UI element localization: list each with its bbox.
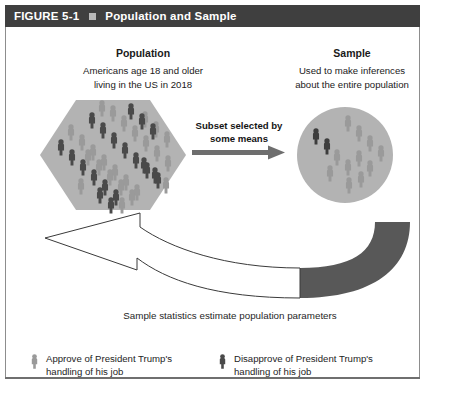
person-icon-light: [30, 354, 39, 370]
legend-approve-text: Approve of President Trump's handling of…: [46, 352, 172, 378]
legend-disapprove-text: Disapprove of President Trump's handling…: [234, 352, 373, 378]
figure-container: FIGURE 5-1 Population and Sample Populat…: [0, 0, 450, 412]
diagram-canvas: [0, 0, 450, 412]
legend-approve-line-2: handling of his job: [46, 365, 172, 378]
curved-arrow-icon: [45, 213, 410, 298]
person-icon-dark: [218, 354, 227, 370]
legend-approve-line-1: Approve of President Trump's: [46, 352, 172, 365]
legend-disapprove-line-2: handling of his job: [234, 365, 373, 378]
right-arrow-icon: [192, 146, 285, 160]
legend-item-approve: Approve of President Trump's handling of…: [30, 352, 220, 378]
feedback-arrow-caption: Sample statistics estimate population pa…: [60, 310, 400, 321]
legend-item-disapprove: Disapprove of President Trump's handling…: [218, 352, 418, 378]
legend-disapprove-line-1: Disapprove of President Trump's: [234, 352, 373, 365]
